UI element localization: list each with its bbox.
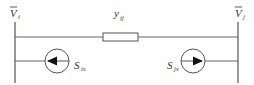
svg-text:ij: ij: [120, 14, 124, 22]
right-current-source: [181, 49, 205, 73]
svg-text:y: y: [113, 7, 119, 19]
circuit-diagram: V i y ij V j S is S js: [0, 0, 254, 85]
svg-text:S: S: [167, 59, 173, 71]
svg-text:j: j: [242, 13, 245, 21]
label-vj: V j: [235, 7, 245, 21]
label-yij: y ij: [113, 7, 124, 22]
svg-text:V: V: [10, 7, 18, 19]
svg-text:i: i: [18, 13, 20, 21]
svg-text:js: js: [173, 65, 179, 73]
svg-text:S: S: [74, 59, 80, 71]
label-sis: S is: [74, 59, 86, 73]
svg-text:V: V: [235, 7, 243, 19]
left-current-source: [45, 49, 69, 73]
admittance-element: [103, 33, 138, 41]
label-sjs: S js: [167, 59, 179, 73]
label-vi: V i: [10, 7, 20, 21]
svg-text:is: is: [81, 65, 86, 73]
